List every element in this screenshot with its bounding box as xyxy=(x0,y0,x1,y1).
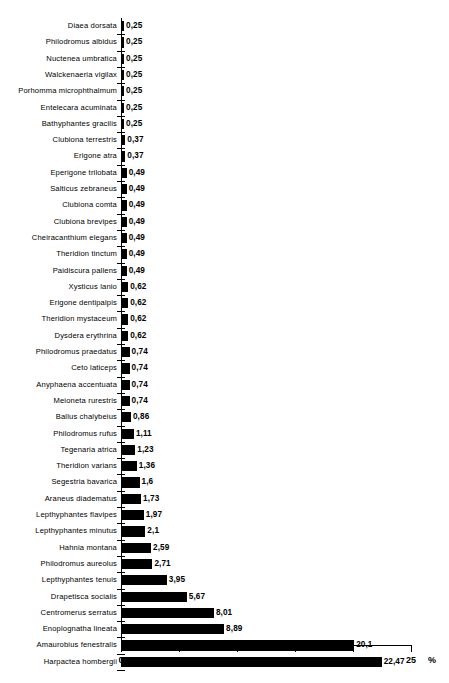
bar-value-label: 1,97 xyxy=(144,507,162,523)
bar-category-label: Harpactea hombergii xyxy=(44,654,117,670)
bar-track: 0,62 xyxy=(121,328,432,344)
bar-row: Theridion tinctum0,49 xyxy=(0,246,449,262)
x-axis-unit-label: % xyxy=(428,655,436,665)
y-axis-tick xyxy=(117,83,125,84)
bar-category-label: Meioneta rurestris xyxy=(54,393,117,409)
y-axis-tick xyxy=(117,426,125,427)
bar-track: 0,74 xyxy=(121,344,432,360)
bar-value-label: 20,1 xyxy=(354,637,372,653)
bar-track: 0,49 xyxy=(121,214,432,230)
bar-row: Harpactea hombergii22,47 xyxy=(0,654,449,670)
bar-value-label: 0,49 xyxy=(127,165,145,181)
bar xyxy=(121,559,152,569)
bar xyxy=(121,477,140,487)
bar-value-label: 2,59 xyxy=(151,540,169,556)
bar-category-label: Ceto laticeps xyxy=(71,360,117,376)
bar-row: Ballus chalybeius0,86 xyxy=(0,409,449,425)
bar-category-label: Drapetisca socialis xyxy=(51,589,117,605)
bar-category-label: Xysticus lanio xyxy=(68,279,117,295)
bar-row: Lepthyphantes minutus2,1 xyxy=(0,523,449,539)
bar-row: Theridion mystaceum0,62 xyxy=(0,311,449,327)
y-axis-tick xyxy=(117,263,125,264)
y-axis-tick xyxy=(117,523,125,524)
bar-track: 0,74 xyxy=(121,377,432,393)
bar-row: Araneus diadematus1,73 xyxy=(0,491,449,507)
bar-value-label: 0,25 xyxy=(124,18,142,34)
bar-category-label: Erigone atra xyxy=(74,148,117,164)
bar-value-label: 0,62 xyxy=(128,311,146,327)
bar-row: Paidiscura pallens0,49 xyxy=(0,263,449,279)
bar-value-label: 1,73 xyxy=(141,491,159,507)
bar-category-label: Theridion mystaceum xyxy=(42,311,117,327)
bar-row: Tegenaria atrica1,23 xyxy=(0,442,449,458)
bar-value-label: 0,49 xyxy=(127,230,145,246)
bar-row: Walckenaeria vigilax0,25 xyxy=(0,67,449,83)
bar-category-label: Segestria bavarica xyxy=(51,474,117,490)
bar-value-label: 0,25 xyxy=(124,67,142,83)
bar-category-label: Philodromus albidus xyxy=(46,34,117,50)
x-axis-tick-label: 15 xyxy=(290,655,300,665)
y-axis-tick xyxy=(117,148,125,149)
bar-category-label: Salticus zebraneus xyxy=(50,181,117,197)
bar-category-label: Centromerus serratus xyxy=(41,605,117,621)
bar-track: 0,49 xyxy=(121,230,432,246)
y-axis-tick xyxy=(117,377,125,378)
bar-value-label: 0,74 xyxy=(130,360,148,376)
x-axis-tick-label: 10 xyxy=(232,655,242,665)
bar xyxy=(121,429,134,439)
y-axis-tick xyxy=(117,540,125,541)
bar-value-label: 0,25 xyxy=(124,34,142,50)
y-axis-tick xyxy=(117,116,125,117)
bar-row: Erigone atra0,37 xyxy=(0,148,449,164)
bar-category-label: Araneus diadematus xyxy=(45,491,117,507)
y-axis-tick xyxy=(117,295,125,296)
y-axis-tick xyxy=(117,197,125,198)
bar xyxy=(121,282,128,292)
bar-category-label: Theridion varians xyxy=(56,458,117,474)
bar-track: 20,1 xyxy=(121,637,432,653)
bar-track: 0,25 xyxy=(121,116,432,132)
y-axis-tick xyxy=(117,67,125,68)
bar-row: Clubiona brevipes0,49 xyxy=(0,214,449,230)
bar-row: Bathyphantes gracilis0,25 xyxy=(0,116,449,132)
bar-row: Anyphaena accentuata0,74 xyxy=(0,377,449,393)
bar xyxy=(121,445,135,455)
bar xyxy=(121,592,187,602)
bar-track: 2,1 xyxy=(121,523,432,539)
bar-category-label: Bathyphantes gracilis xyxy=(42,116,117,132)
bar-value-label: 5,67 xyxy=(187,589,205,605)
x-axis-tick xyxy=(121,645,122,652)
bar-track: 0,49 xyxy=(121,165,432,181)
x-axis-tick xyxy=(295,645,296,652)
bar-value-label: 0,62 xyxy=(128,295,146,311)
bar-value-label: 0,49 xyxy=(127,246,145,262)
bar-category-label: Clubiona brevipes xyxy=(54,214,117,230)
bar-value-label: 0,74 xyxy=(130,377,148,393)
bar-row: Lepthyphantes flavipes1,97 xyxy=(0,507,449,523)
bar-category-label: Philodromus rufus xyxy=(53,426,117,442)
y-axis-tick xyxy=(117,458,125,459)
y-axis-tick xyxy=(117,670,125,671)
bar xyxy=(121,543,151,553)
bar-value-label: 2,1 xyxy=(145,523,159,539)
y-axis-tick xyxy=(117,393,125,394)
y-axis-tick xyxy=(117,181,125,182)
bar-track: 0,62 xyxy=(121,311,432,327)
bar-category-label: Anyphaena accentuata xyxy=(36,377,117,393)
bar-track: 5,67 xyxy=(121,589,432,605)
bar-row: Eperigone trilobata0,49 xyxy=(0,165,449,181)
bar-category-label: Lepthyphantes tenuis xyxy=(42,572,117,588)
y-axis-tick xyxy=(117,51,125,52)
bar-value-label: 0,25 xyxy=(124,100,142,116)
y-axis-tick xyxy=(117,230,125,231)
bar-category-label: Lepthyphantes minutus xyxy=(35,523,117,539)
bar-track: 1,73 xyxy=(121,491,432,507)
y-axis-tick xyxy=(117,556,125,557)
bar xyxy=(121,396,130,406)
bar-category-label: Hahnia montana xyxy=(59,540,117,556)
bar-track: 0,25 xyxy=(121,34,432,50)
bar xyxy=(121,526,145,536)
bar-row: Erigone dentipalpis0,62 xyxy=(0,295,449,311)
bar-row: Amaurobius fenestralis20,1 xyxy=(0,637,449,653)
x-axis-tick-label: 25 xyxy=(406,655,416,665)
